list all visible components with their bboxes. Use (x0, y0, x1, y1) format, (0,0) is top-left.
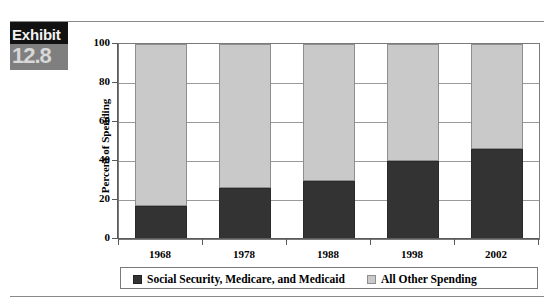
x-tick-3 (370, 239, 371, 245)
bar-group-1988[interactable] (303, 44, 355, 239)
bar-group-1998[interactable] (387, 44, 439, 239)
bar-segment-1968-series-1[interactable] (135, 44, 187, 206)
bar-group-1978[interactable] (219, 44, 271, 239)
bar-segment-2002-series-0[interactable] (471, 149, 523, 239)
legend-swatch-dark (133, 275, 142, 284)
y-tick-label-40: 40 (70, 154, 110, 165)
exhibit-figure: Exhibit 12.8 Percent of Spending 0204060… (0, 0, 554, 308)
bar-group-1968[interactable] (135, 44, 187, 239)
bar-segment-1988-series-1[interactable] (303, 44, 355, 181)
x-tick-2 (286, 239, 287, 245)
x-tick-end (538, 239, 539, 245)
x-tick-label-1988: 1988 (286, 248, 370, 260)
bar-segment-2002-series-1[interactable] (471, 44, 523, 149)
y-tick-label-100: 100 (70, 37, 110, 48)
bar-segment-1998-series-0[interactable] (387, 161, 439, 239)
plot-area (118, 43, 540, 240)
x-axis-line (117, 238, 539, 239)
x-tick-0 (118, 239, 119, 245)
legend-label-1: All Other Spending (381, 273, 477, 286)
legend-label-0: Social Security, Medicare, and Medicaid (147, 273, 345, 286)
x-tick-label-1978: 1978 (202, 248, 286, 260)
legend-swatch-light (367, 275, 376, 284)
bar-segment-1968-series-0[interactable] (135, 206, 187, 239)
legend-item-social-security: Social Security, Medicare, and Medicaid (133, 271, 345, 287)
x-tick-label-1998: 1998 (370, 248, 454, 260)
bar-segment-1998-series-1[interactable] (387, 44, 439, 161)
bar-segment-1978-series-0[interactable] (219, 188, 271, 239)
y-tick-label-80: 80 (70, 76, 110, 87)
chart-legend: Social Security, Medicare, and Medicaid … (120, 267, 538, 289)
bar-segment-1978-series-1[interactable] (219, 44, 271, 188)
y-tick-label-60: 60 (70, 115, 110, 126)
x-tick-label-1968: 1968 (118, 248, 202, 260)
x-tick-label-2002: 2002 (454, 248, 538, 260)
y-axis-labels: 020406080100 (62, 0, 110, 308)
bar-group-2002[interactable] (471, 44, 523, 239)
legend-item-all-other-spending: All Other Spending (367, 271, 477, 287)
x-tick-1 (202, 239, 203, 245)
x-tick-4 (454, 239, 455, 245)
y-tick-label-20: 20 (70, 193, 110, 204)
bar-segment-1988-series-0[interactable] (303, 181, 355, 240)
plot-inner (119, 44, 539, 239)
y-tick-label-0: 0 (70, 232, 110, 243)
